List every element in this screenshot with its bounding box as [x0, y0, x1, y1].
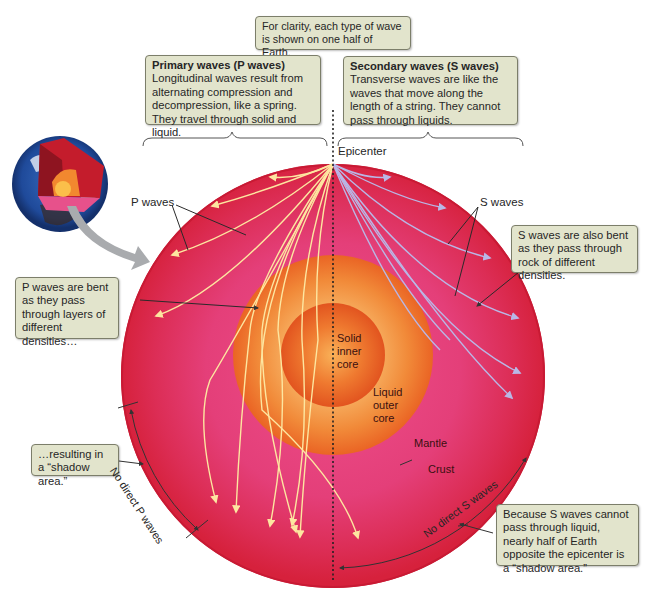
primary-waves-title: Primary waves (P waves) [152, 59, 314, 72]
inner-core-line-2: inner [337, 345, 361, 358]
s-shadow-area-text: Because S waves cannot pass through liqu… [503, 508, 632, 575]
s-waves-bent-callout: S waves are also bent as they pass throu… [511, 225, 638, 273]
curved-arrow-icon [67, 206, 150, 270]
solid-inner-core-label: Solid inner core [337, 332, 361, 371]
earth-cutaway-icon [12, 136, 108, 232]
clarity-note-text: For clarity, each type of wave is shown … [262, 20, 404, 59]
s-shadow-area-callout: Because S waves cannot pass through liqu… [496, 504, 639, 566]
s-brace [338, 132, 523, 146]
s-waves-bent-text: S waves are also bent as they pass throu… [518, 229, 631, 283]
secondary-waves-callout: Secondary waves (S waves) Transverse wav… [343, 56, 518, 125]
p-waves-label: P waves [131, 196, 174, 208]
primary-waves-callout: Primary waves (P waves) Longitudinal wav… [145, 55, 321, 125]
crust-label: Crust [428, 463, 454, 476]
outer-core-line-3: core [373, 412, 402, 425]
outer-core-line-2: outer [373, 399, 402, 412]
seismic-wave-diagram: For clarity, each type of wave is shown … [0, 0, 652, 591]
outer-core-line-1: Liquid [373, 386, 402, 399]
p-waves-bent-callout: P waves are bent as they pass through la… [15, 277, 119, 339]
p-shadow-area-callout: …resulting in a “shadow area.” [31, 444, 119, 476]
liquid-outer-core-label: Liquid outer core [373, 386, 402, 425]
secondary-waves-body: Transverse waves are like the waves that… [350, 73, 511, 127]
p-shadow-area-text: …resulting in a “shadow area.” [38, 448, 112, 488]
clarity-note-callout: For clarity, each type of wave is shown … [255, 16, 411, 50]
inner-core-line-1: Solid [337, 332, 361, 345]
s-waves-label: S waves [480, 196, 523, 208]
secondary-waves-title: Secondary waves (S waves) [350, 60, 511, 73]
mantle-label: Mantle [414, 437, 447, 450]
primary-waves-body: Longitudinal waves result from alternati… [152, 72, 314, 139]
p-waves-bent-text: P waves are bent as they pass through la… [22, 281, 112, 348]
inner-core-line-3: core [337, 358, 361, 371]
epicenter-label: Epicenter [338, 145, 387, 157]
